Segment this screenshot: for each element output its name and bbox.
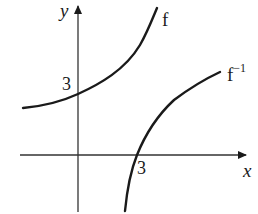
x-tick-label: 3 xyxy=(137,159,146,177)
curve-f-inverse xyxy=(125,72,220,211)
x-axis-label: x xyxy=(243,161,251,180)
curve-f-inverse-label-superscript: −1 xyxy=(233,61,246,75)
y-tick-label: 3 xyxy=(62,75,71,93)
graph-canvas xyxy=(0,0,258,214)
curve-f-label: f xyxy=(162,10,168,29)
curve-f xyxy=(23,8,157,108)
curve-f-inverse-label: f−1 xyxy=(227,64,246,84)
y-axis-label: y xyxy=(60,1,68,20)
